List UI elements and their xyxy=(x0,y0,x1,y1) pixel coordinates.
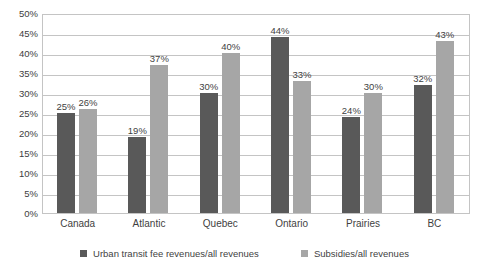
legend-label: Subsidies/all revenues xyxy=(314,248,409,259)
bar xyxy=(436,41,454,213)
y-tick-label: 25% xyxy=(0,109,38,119)
bars-layer: 25%26%19%37%30%40%44%33%24%30%32%43% xyxy=(43,15,469,213)
bar-group: 25%26% xyxy=(43,15,114,213)
legend-swatch-icon xyxy=(301,250,308,257)
bar-value-label: 43% xyxy=(428,29,462,40)
bar-value-label: 33% xyxy=(285,69,319,80)
y-tick-label: 10% xyxy=(0,169,38,179)
x-tick-label: BC xyxy=(398,218,470,230)
bar-group: 32%43% xyxy=(400,15,471,213)
y-tick-label: 35% xyxy=(0,69,38,79)
plot-area: 25%26%19%37%30%40%44%33%24%30%32%43% xyxy=(42,14,470,214)
x-tick-label: Prairies xyxy=(327,218,399,230)
bar-group: 24%30% xyxy=(328,15,399,213)
y-tick-label: 0% xyxy=(0,209,38,219)
bar-chart: 50%45%40%35%30%25%20%15%10%5%0% 25%26%19… xyxy=(0,0,489,271)
bar-value-label: 19% xyxy=(120,125,154,136)
bar xyxy=(364,93,382,213)
bar xyxy=(293,81,311,213)
bar-value-label: 26% xyxy=(71,97,105,108)
x-tick-label: Ontario xyxy=(256,218,328,230)
bar xyxy=(150,65,168,213)
bar xyxy=(128,137,146,213)
y-tick-label: 45% xyxy=(0,29,38,39)
bar-value-label: 30% xyxy=(192,81,226,92)
legend-label: Urban transit fee revenues/all revenues xyxy=(93,248,259,259)
legend-item-series1: Subsidies/all revenues xyxy=(301,248,409,259)
y-tick-label: 50% xyxy=(0,9,38,19)
bar xyxy=(57,113,75,213)
bar xyxy=(271,37,289,213)
bar-group: 19%37% xyxy=(114,15,185,213)
bar xyxy=(79,109,97,213)
bar-value-label: 24% xyxy=(334,105,368,116)
bar-value-label: 40% xyxy=(214,41,248,52)
y-tick-label: 5% xyxy=(0,189,38,199)
y-axis: 50%45%40%35%30%25%20%15%10%5%0% xyxy=(0,14,38,214)
bar-group: 44%33% xyxy=(257,15,328,213)
bar-group: 30%40% xyxy=(186,15,257,213)
y-tick-label: 30% xyxy=(0,89,38,99)
bar xyxy=(414,85,432,213)
bar-value-label: 37% xyxy=(142,53,176,64)
x-tick-label: Atlantic xyxy=(113,218,185,230)
bar-value-label: 30% xyxy=(356,81,390,92)
x-tick-label: Quebec xyxy=(184,218,256,230)
y-tick-label: 15% xyxy=(0,149,38,159)
legend-swatch-icon xyxy=(80,250,87,257)
y-tick-label: 40% xyxy=(0,49,38,59)
chart-legend: Urban transit fee revenues/all revenues … xyxy=(0,246,489,260)
x-axis: CanadaAtlanticQuebecOntarioPrairiesBC xyxy=(42,218,470,234)
bar-value-label: 32% xyxy=(406,73,440,84)
y-tick-label: 20% xyxy=(0,129,38,139)
bar xyxy=(342,117,360,213)
bar xyxy=(200,93,218,213)
bar xyxy=(222,53,240,213)
legend-item-series0: Urban transit fee revenues/all revenues xyxy=(80,248,259,259)
bar-value-label: 44% xyxy=(263,25,297,36)
x-tick-label: Canada xyxy=(42,218,114,230)
